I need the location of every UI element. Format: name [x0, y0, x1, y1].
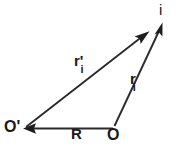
- label-vector-r-i: ri: [130, 71, 139, 90]
- vector-r-i-arrowhead-icon: [155, 23, 163, 37]
- vector-R: [23, 123, 113, 134]
- label-vector-r-prime-i: r'i: [74, 53, 86, 72]
- vector-canvas: [0, 0, 182, 149]
- vector-r-prime-i-shaft: [26, 38, 141, 128]
- label-r-subscript: i: [133, 81, 136, 93]
- vector-r-prime-i-arrowhead-icon: [135, 31, 150, 44]
- label-origin-primed: O': [4, 119, 20, 135]
- vector-diagram-figure: i O' O R r'i ri: [0, 0, 182, 149]
- label-origin: O: [107, 127, 119, 143]
- label-vector-R: R: [71, 126, 82, 141]
- label-particle-i: i: [159, 2, 162, 17]
